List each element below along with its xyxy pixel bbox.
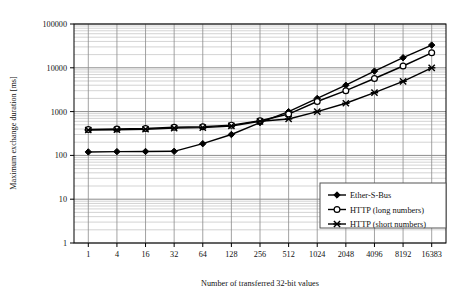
y-axis-title: Maximum exchange duration [ms] xyxy=(9,76,18,190)
legend-item-label: Ether-S-Bus xyxy=(350,191,391,200)
x-tick-label: 1 xyxy=(86,250,90,259)
x-tick-label: 16 xyxy=(141,250,149,259)
x-tick-label: 256 xyxy=(254,250,266,259)
legend: Ether-S-BusHTTP (long numbers)HTTP (shor… xyxy=(320,183,446,229)
chart-figure: 110100100010000100000 141632641282565121… xyxy=(0,0,467,297)
legend-item-label: HTTP (long numbers) xyxy=(350,206,424,215)
y-tick-label: 10 xyxy=(59,195,67,204)
x-tick-label: 8192 xyxy=(395,250,411,259)
y-tick-label: 1 xyxy=(63,239,67,248)
x-tick-label: 2048 xyxy=(338,250,354,259)
x-tick-label: 1024 xyxy=(309,250,325,259)
log-line-chart: 110100100010000100000 141632641282565121… xyxy=(0,0,467,297)
legend-item-label: HTTP (short numbers) xyxy=(350,220,426,229)
x-tick-label: 64 xyxy=(199,250,207,259)
x-axis-title: Number of transferred 32-bit values xyxy=(201,279,319,288)
x-tick-label: 32 xyxy=(170,250,178,259)
x-tick-label: 512 xyxy=(282,250,294,259)
x-tick-label: 4 xyxy=(115,250,119,259)
x-tick-label: 16383 xyxy=(421,250,441,259)
y-tick-label: 10000 xyxy=(47,64,67,73)
x-tick-label: 128 xyxy=(225,250,237,259)
y-tick-label: 100000 xyxy=(42,20,67,29)
y-tick-label: 100 xyxy=(55,151,67,160)
x-tick-label: 4096 xyxy=(366,250,382,259)
y-tick-label: 1000 xyxy=(51,108,67,117)
